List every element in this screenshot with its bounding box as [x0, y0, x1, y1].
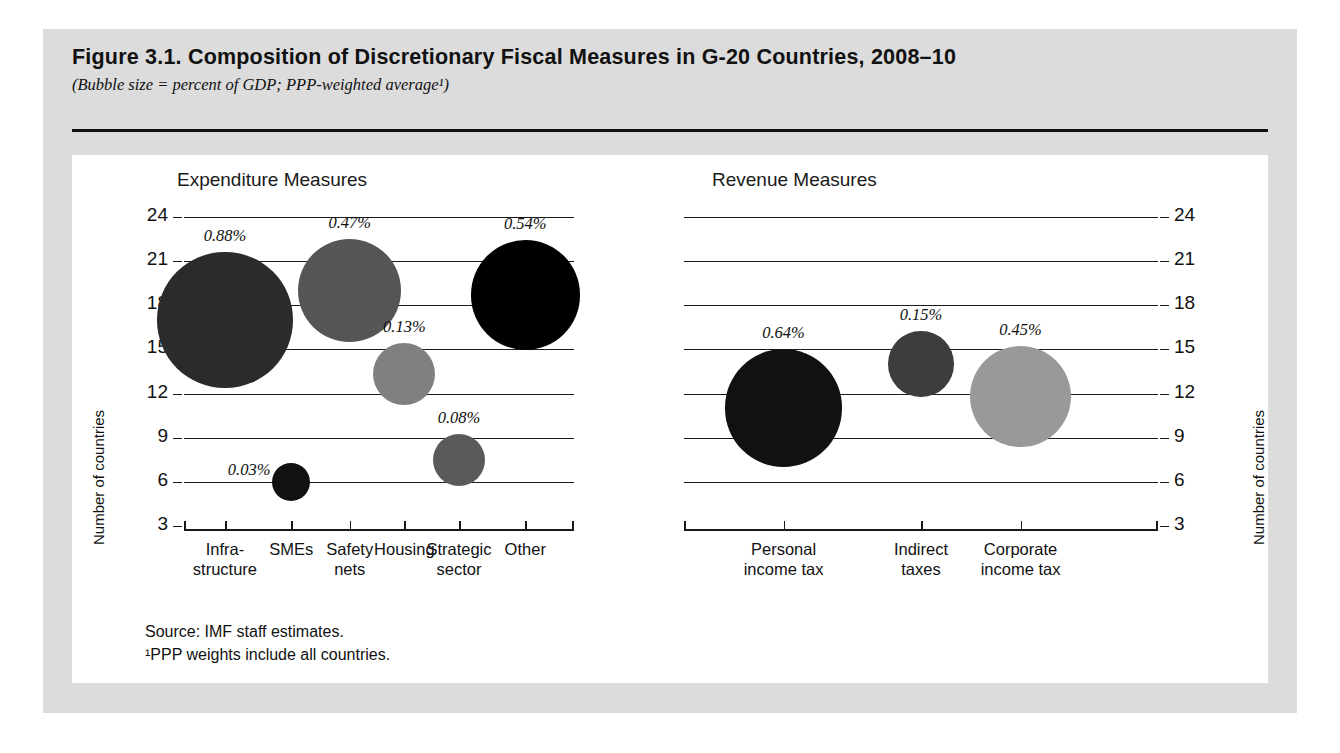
bubble-value-label-2: 0.03% — [214, 460, 284, 480]
x-category-label-2: Corporate income tax — [961, 539, 1081, 579]
ytick-dash-21 — [1160, 261, 1169, 262]
bubble-value-label-3: 0.45% — [986, 320, 1056, 340]
ytick-dash-12 — [173, 394, 182, 395]
ytick-label-15: 15 — [1174, 336, 1208, 358]
bubble-value-label-5: 0.08% — [424, 408, 494, 428]
ytick-dash-9 — [1160, 438, 1169, 439]
gridline-9 — [184, 438, 574, 439]
x-category-label-0: Personal income tax — [724, 539, 844, 579]
figure-page: Figure 3.1. Composition of Discretionary… — [0, 0, 1340, 753]
ytick-label-12: 12 — [134, 381, 168, 403]
x-axis-cap-left — [684, 521, 686, 530]
x-axis-tick-0 — [225, 521, 227, 530]
x-axis-tick-1 — [291, 521, 293, 530]
ytick-label-6: 6 — [134, 469, 168, 491]
ytick-dash-24 — [173, 217, 182, 218]
figure-subtitle: (Bubble size = percent of GDP; PPP-weigh… — [72, 75, 1268, 95]
title-divider — [72, 129, 1268, 132]
ytick-dash-9 — [173, 438, 182, 439]
ytick-dash-3 — [1160, 526, 1169, 527]
x-axis-tick-0 — [784, 521, 786, 530]
ytick-label-18: 18 — [1174, 292, 1208, 314]
ytick-dash-6 — [173, 482, 182, 483]
source-line: Source: IMF staff estimates. — [145, 620, 390, 643]
source-notes: Source: IMF staff estimates. ¹PPP weight… — [145, 620, 390, 666]
ytick-label-24: 24 — [134, 204, 168, 226]
ytick-label-9: 9 — [1174, 425, 1208, 447]
x-axis-tick-3 — [404, 521, 406, 530]
ytick-label-21: 21 — [134, 248, 168, 270]
bubble-4[interactable] — [373, 343, 435, 405]
x-axis-tick-2 — [1021, 521, 1023, 530]
page-title: Figure 3.1. Composition of Discretionary… — [72, 45, 1268, 70]
bubble-value-label-1: 0.64% — [749, 323, 819, 343]
y-axis-title: Number of countries — [1250, 410, 1267, 545]
bubble-1[interactable] — [725, 349, 843, 467]
figure-header: Figure 3.1. Composition of Discretionary… — [72, 45, 1268, 151]
ytick-label-9: 9 — [134, 425, 168, 447]
ytick-dash-24 — [1160, 217, 1169, 218]
gridline-24 — [684, 217, 1158, 218]
x-axis-tick-5 — [525, 521, 527, 530]
chart-revenue-measures: 2421181512963Number of countriesPersonal… — [672, 155, 1268, 625]
ytick-label-12: 12 — [1174, 381, 1208, 403]
ytick-label-21: 21 — [1174, 248, 1208, 270]
chart-expenditure-measures: 2421181512963Number of countriesInfra- s… — [72, 155, 632, 625]
x-category-label-5: Other — [479, 539, 571, 559]
footnote-line: ¹PPP weights include all countries. — [145, 643, 390, 666]
ytick-dash-15 — [1160, 349, 1169, 350]
x-axis-cap-right — [572, 521, 574, 530]
gridline-12 — [184, 394, 574, 395]
bubble-value-label-4: 0.13% — [369, 317, 439, 337]
bubble-value-label-2: 0.15% — [886, 305, 956, 325]
bubble-value-label-3: 0.47% — [315, 213, 385, 233]
bubble-5[interactable] — [433, 434, 485, 486]
ytick-dash-3 — [173, 526, 182, 527]
ytick-label-24: 24 — [1174, 204, 1208, 226]
gridline-6 — [184, 482, 574, 483]
gridline-6 — [684, 482, 1158, 483]
bubble-2[interactable] — [888, 331, 953, 396]
ytick-label-3: 3 — [1174, 513, 1208, 535]
ytick-dash-21 — [173, 261, 182, 262]
ytick-label-6: 6 — [1174, 469, 1208, 491]
x-axis-tick-1 — [921, 521, 923, 530]
bubble-6[interactable] — [471, 240, 580, 349]
x-axis-line — [184, 529, 574, 531]
gridline-21 — [684, 261, 1158, 262]
bubble-value-label-6: 0.54% — [490, 214, 560, 234]
x-axis-tick-4 — [459, 521, 461, 530]
x-axis-cap-left — [184, 521, 186, 530]
bubble-3[interactable] — [970, 346, 1071, 447]
y-axis-title: Number of countries — [90, 410, 107, 545]
ytick-dash-18 — [1160, 305, 1169, 306]
ytick-dash-6 — [1160, 482, 1169, 483]
x-axis-cap-right — [1156, 521, 1158, 530]
bubble-1[interactable] — [157, 252, 292, 387]
chart-panel: Expenditure Measures 2421181512963Number… — [72, 155, 1268, 683]
x-axis-tick-2 — [350, 521, 352, 530]
ytick-label-3: 3 — [134, 513, 168, 535]
ytick-dash-12 — [1160, 394, 1169, 395]
bubble-value-label-1: 0.88% — [190, 226, 260, 246]
